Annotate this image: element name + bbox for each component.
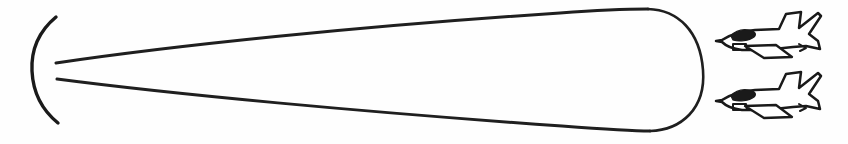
jet-lower — [716, 72, 821, 118]
diagram-canvas — [0, 0, 848, 144]
antenna-group — [32, 17, 58, 123]
beam-far-cap — [648, 9, 703, 131]
beam-upper-edge — [56, 9, 648, 63]
beam-lower-edge — [57, 79, 650, 131]
jet-upper — [716, 12, 821, 58]
diagram-svg — [0, 0, 848, 144]
antenna-arc — [32, 17, 58, 123]
beam-cone-group — [56, 9, 703, 131]
